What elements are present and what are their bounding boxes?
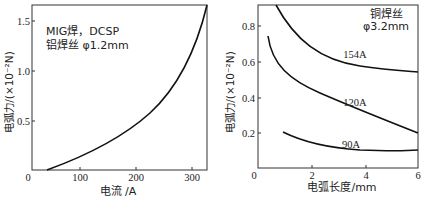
right-xtick-2: 2 xyxy=(309,170,314,181)
right-ytick-0.4: 0.4 xyxy=(242,93,256,104)
left-ytick-1.5: 1.5 xyxy=(17,16,30,27)
right-annotation-line1: 铜焊丝 xyxy=(370,7,403,21)
left-origin-label: 0 xyxy=(25,172,30,183)
left-ytick-1.0: 1.0 xyxy=(17,66,30,77)
label-154A: 154A xyxy=(343,49,367,60)
right-origin-label: 0 xyxy=(251,170,256,181)
left-x-axis-label: 电流 /A xyxy=(100,184,137,198)
left-y-axis-label: 电弧力/(×10⁻²N) xyxy=(3,51,15,133)
left-annotation-line2: 铝焊丝 φ1.2mm xyxy=(46,38,129,52)
right-y-axis-label: 电弧力/(×10⁻²N) xyxy=(224,51,236,133)
right-ytick-0.8: 0.8 xyxy=(242,21,255,32)
right-ytick-0.2: 0.2 xyxy=(242,128,255,139)
label-120A: 120A xyxy=(343,97,367,108)
right-ytick-0.6: 0.6 xyxy=(242,57,255,68)
left-xtick-100: 100 xyxy=(72,172,88,183)
left-xtick-300: 300 xyxy=(184,172,200,183)
left-xtick-200: 200 xyxy=(128,172,144,183)
right-x-axis-label: 电弧长度/mm xyxy=(307,180,376,194)
right-chart: 0 2 4 6 0.2 0.4 0.6 0.8 电弧长度/mm 电弧力/(×10… xyxy=(224,5,421,194)
left-ytick-0.5: 0.5 xyxy=(17,116,30,127)
right-annotation-line2: φ3.2mm xyxy=(363,20,409,33)
left-chart: 0 100 200 300 0.5 1.0 1.5 电流 /A 电弧力/(×10… xyxy=(3,5,207,198)
right-xtick-6: 6 xyxy=(415,170,420,181)
left-annotation-line1: MIG焊，DCSP xyxy=(46,24,119,38)
figure: 0 100 200 300 0.5 1.0 1.5 电流 /A 电弧力/(×10… xyxy=(0,0,424,203)
right-xtick-4: 4 xyxy=(363,170,369,181)
label-90A: 90A xyxy=(342,139,361,150)
